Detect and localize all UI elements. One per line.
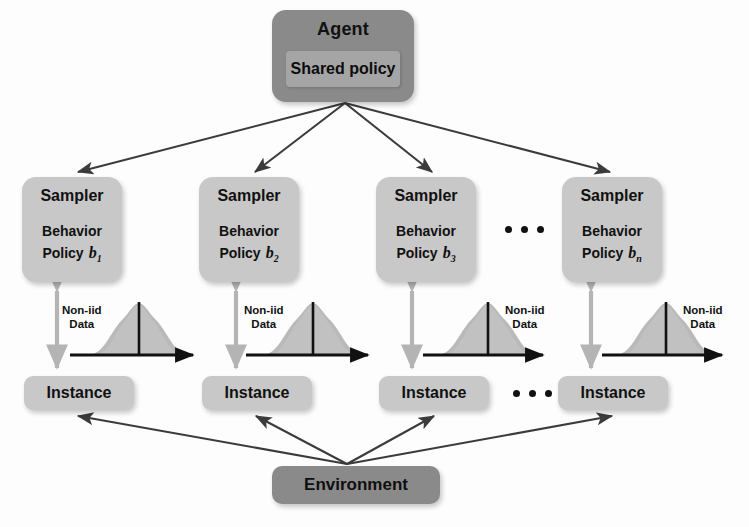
- sampler-policy-label: Policy: [582, 245, 623, 261]
- sampler-node-4[interactable]: Sampler Behavior Policybn: [562, 177, 662, 282]
- non-iid-line1: Non-iid: [244, 303, 284, 317]
- ellipsis-dot: [529, 390, 536, 397]
- non-iid-line1: Non-iid: [683, 303, 723, 317]
- ellipsis-dot: [537, 226, 544, 233]
- non-iid-line2: Data: [244, 317, 284, 331]
- non-iid-line1: Non-iid: [62, 303, 102, 317]
- sampler-row-ellipsis: [505, 226, 544, 233]
- sampler-behavior-label: Behavior: [42, 221, 102, 241]
- sampler-node-1[interactable]: Sampler Behavior Policyb1: [22, 177, 122, 282]
- shared-policy-box[interactable]: Shared policy: [286, 51, 400, 87]
- sampler-title: Sampler: [580, 187, 643, 205]
- sampler-policy-symbol: bn: [623, 244, 642, 261]
- sampler-policy-line: Policyb3: [396, 241, 455, 267]
- non-iid-data-label-2: Non-iid Data: [244, 303, 284, 332]
- non-iid-data-label-1: Non-iid Data: [62, 303, 102, 332]
- agent-to-sampler-arrows: [78, 103, 610, 172]
- instance-node-2[interactable]: Instance: [202, 376, 312, 410]
- sampler-policy-line: Policybn: [582, 241, 642, 267]
- sampler-title: Sampler: [394, 187, 457, 205]
- non-iid-line2: Data: [62, 317, 102, 331]
- sampler-policy-line: Policyb1: [42, 241, 101, 267]
- instance-node-4[interactable]: Instance: [558, 376, 668, 410]
- sampler-behavior-label: Behavior: [582, 221, 642, 241]
- non-iid-line2: Data: [505, 317, 545, 331]
- sampler-policy-symbol: b3: [438, 244, 456, 261]
- sampler-node-3[interactable]: Sampler Behavior Policyb3: [376, 177, 476, 282]
- sampler-behavior-label: Behavior: [396, 221, 456, 241]
- sampler-policy-line: Policyb2: [219, 241, 278, 267]
- sampler-policy-label: Policy: [396, 245, 437, 261]
- sampler-policy-symbol: b2: [261, 244, 279, 261]
- environment-to-instance-arrows: [78, 416, 612, 464]
- sampler-behavior-label: Behavior: [219, 221, 279, 241]
- instance-node-1[interactable]: Instance: [24, 376, 134, 410]
- sampler-policy-label: Policy: [42, 245, 83, 261]
- sampler-policy-label: Policy: [219, 245, 260, 261]
- ellipsis-dot: [521, 226, 528, 233]
- agent-node[interactable]: Agent Shared policy: [272, 10, 414, 102]
- non-iid-data-label-3: Non-iid Data: [505, 303, 545, 332]
- agent-title: Agent: [317, 19, 369, 40]
- ellipsis-dot: [513, 390, 520, 397]
- instance-row-ellipsis: [513, 390, 552, 397]
- ellipsis-dot: [545, 390, 552, 397]
- non-iid-data-label-4: Non-iid Data: [683, 303, 723, 332]
- instance-node-3[interactable]: Instance: [379, 376, 489, 410]
- sampler-title: Sampler: [40, 187, 103, 205]
- sampler-title: Sampler: [217, 187, 280, 205]
- non-iid-line2: Data: [683, 317, 723, 331]
- sampler-node-2[interactable]: Sampler Behavior Policyb2: [199, 177, 299, 282]
- ellipsis-dot: [505, 226, 512, 233]
- non-iid-line1: Non-iid: [505, 303, 545, 317]
- environment-node[interactable]: Environment: [272, 466, 440, 504]
- sampler-policy-symbol: b1: [84, 244, 102, 261]
- diagram-canvas: Agent Shared policy Sampler Behavior Pol…: [0, 0, 749, 527]
